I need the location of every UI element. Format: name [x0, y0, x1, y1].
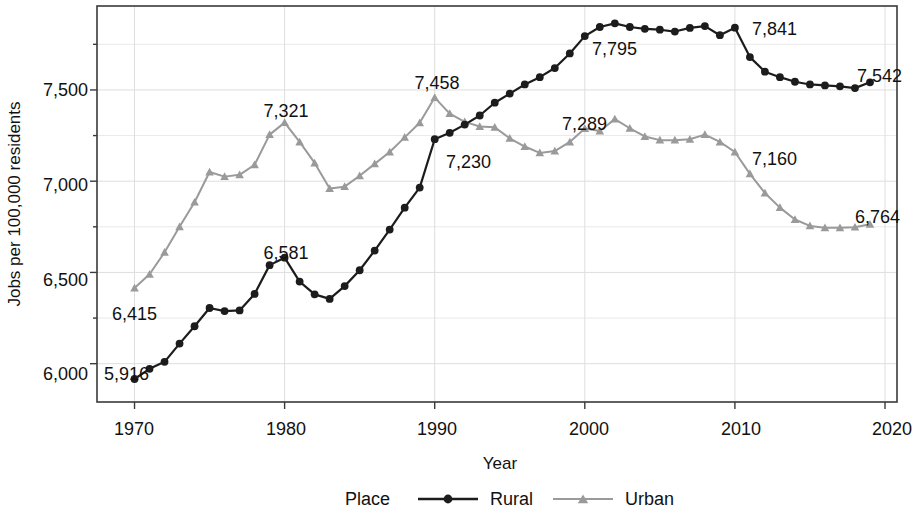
data-label-urban-2010: 7,160	[752, 149, 797, 169]
data-label-rural-1970: 5,916	[104, 364, 149, 384]
x-axis-tickmarks	[135, 402, 885, 409]
chart-svg: 7,500 7,000 6,500 6,000 1970 1980 1990 2…	[0, 0, 917, 517]
data-label-rural-2000: 7,795	[592, 39, 637, 59]
data-label-urban-2019: 6,764	[855, 207, 900, 227]
chart-legend: Place Rural Urban	[345, 489, 674, 509]
x-tick-label-2020: 2020	[872, 419, 912, 439]
y-tick-label-7000: 7,000	[43, 175, 88, 195]
x-tick-label-2010: 2010	[721, 419, 761, 439]
data-label-rural-1980: 6,581	[263, 243, 308, 263]
data-label-urban-1990: 7,458	[414, 73, 459, 93]
x-tick-label-2000: 2000	[569, 419, 609, 439]
legend-label-urban: Urban	[625, 489, 674, 509]
line-chart-figure: 7,500 7,000 6,500 6,000 1970 1980 1990 2…	[0, 0, 917, 517]
data-label-rural-2010: 7,841	[752, 19, 797, 39]
data-label-rural-2019: 7,542	[857, 66, 902, 86]
data-label-rural-1990: 7,230	[446, 152, 491, 172]
data-label-urban-1970: 6,415	[112, 304, 157, 324]
legend-swatch-marker-rural	[444, 495, 453, 504]
x-tick-label-1980: 1980	[266, 419, 306, 439]
y-axis-title: Jobs per 100,000 residents	[5, 101, 24, 306]
x-tick-label-1970: 1970	[114, 419, 154, 439]
y-tick-label-6000: 6,000	[43, 364, 88, 384]
data-label-urban-1980: 7,321	[263, 101, 308, 121]
x-axis-title: Year	[483, 454, 518, 473]
legend-title: Place	[345, 489, 390, 509]
x-tick-label-1990: 1990	[417, 419, 457, 439]
data-label-urban-2000: 7,289	[562, 114, 607, 134]
legend-label-rural: Rural	[490, 489, 533, 509]
y-tick-label-7500: 7,500	[43, 80, 88, 100]
y-tick-label-6500: 6,500	[43, 270, 88, 290]
